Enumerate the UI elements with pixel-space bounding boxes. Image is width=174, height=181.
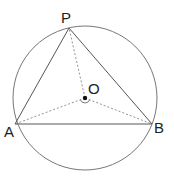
segment-PA [15, 28, 69, 124]
segment-PB [69, 28, 152, 124]
center-point-O [83, 96, 87, 100]
label-O: O [88, 80, 100, 97]
angle-arc-at-O [80, 100, 89, 103]
label-A: A [4, 123, 14, 140]
segment-OA [15, 98, 85, 124]
geometry-diagram: P A B O [0, 0, 174, 181]
segment-OP [69, 28, 85, 98]
label-P: P [61, 9, 71, 26]
label-B: B [154, 119, 164, 136]
segment-OB [85, 98, 152, 124]
point-labels: P A B O [4, 9, 164, 140]
